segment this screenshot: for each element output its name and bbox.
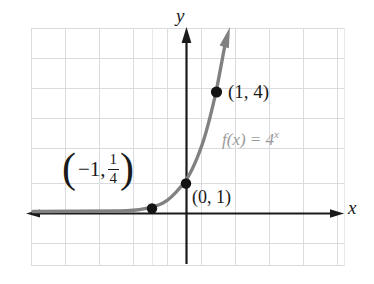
fraction-numerator: 1 bbox=[108, 152, 120, 168]
fraction-one-quarter: 1 4 bbox=[108, 152, 120, 187]
point-label-1-4: (1, 4) bbox=[228, 82, 269, 101]
function-label-exponent: x bbox=[274, 128, 279, 140]
function-expression-label: f(x) = 4x bbox=[222, 129, 279, 148]
grid-lines bbox=[31, 28, 345, 266]
point-label-0-1: (0, 1) bbox=[192, 188, 231, 206]
open-paren-glyph: ( bbox=[62, 153, 76, 183]
fraction-denominator: 4 bbox=[108, 171, 120, 187]
function-label-base: f(x) = 4 bbox=[222, 130, 274, 149]
data-point-neg1-quarter bbox=[147, 203, 157, 213]
graph-canvas bbox=[0, 0, 374, 284]
y-axis-label: y bbox=[176, 6, 184, 25]
data-point-0-1 bbox=[181, 178, 191, 188]
close-paren-glyph: ) bbox=[120, 153, 134, 183]
point-label-neg1-quarter: ( −1, 1 4 ) bbox=[62, 152, 134, 187]
exponential-function-graph-figure: y x (1, 4) (0, 1) f(x) = 4x ( −1, 1 4 ) bbox=[0, 0, 374, 284]
x-axis-label: x bbox=[348, 198, 356, 217]
data-point-1-4 bbox=[211, 86, 222, 97]
point-label-neg1-x-value: −1, bbox=[76, 159, 107, 180]
y-axis bbox=[182, 27, 192, 264]
